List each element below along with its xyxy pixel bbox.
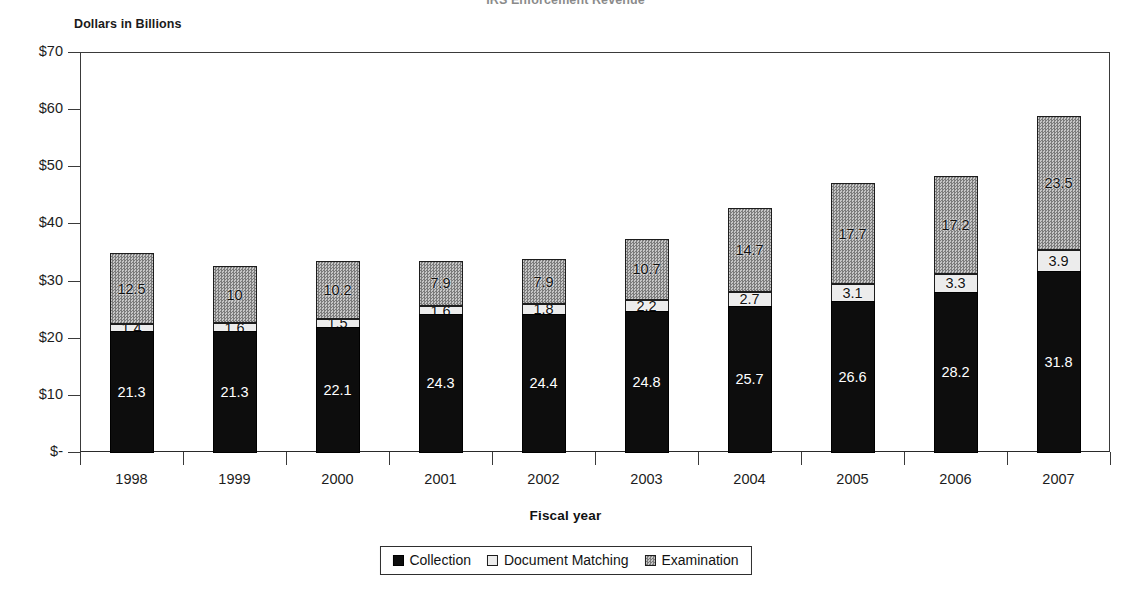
bar-segment-collection[interactable]: 25.7 bbox=[728, 306, 772, 453]
bar-value-label: 10 bbox=[226, 288, 242, 303]
stacked-bar[interactable]: 7.91.824.4 bbox=[522, 259, 566, 452]
bar-segment-examination[interactable]: 10.7 bbox=[625, 239, 669, 300]
bar-value-label: 12.5 bbox=[117, 282, 145, 297]
bar-group[interactable]: 12.51.421.3 bbox=[80, 52, 183, 452]
legend-label: Collection bbox=[409, 552, 470, 568]
legend-item-collection[interactable]: Collection bbox=[392, 552, 470, 568]
legend-label: Examination bbox=[661, 552, 738, 568]
bar-segment-collection[interactable]: 26.6 bbox=[831, 301, 875, 453]
bar-group[interactable]: 7.91.624.3 bbox=[389, 52, 492, 452]
bar-value-label: 24.4 bbox=[529, 376, 557, 391]
y-axis-label: $10 bbox=[3, 386, 63, 402]
bar-group[interactable]: 14.72.725.7 bbox=[698, 52, 801, 452]
bar-value-label: 28.2 bbox=[941, 365, 969, 380]
bar-value-label: 17.2 bbox=[941, 218, 969, 233]
bar-value-label: 22.1 bbox=[323, 383, 351, 398]
bar-value-label: 1.5 bbox=[327, 319, 347, 328]
bar-group[interactable]: 10.21.522.1 bbox=[286, 52, 389, 452]
bar-segment-document-matching[interactable]: 3.3 bbox=[934, 274, 978, 293]
x-axis-label: 1998 bbox=[77, 471, 187, 487]
bar-group[interactable]: 101.621.3 bbox=[183, 52, 286, 452]
y-axis-label: $30 bbox=[3, 272, 63, 288]
bar-segment-collection[interactable]: 24.4 bbox=[522, 314, 566, 453]
y-axis-label: $70 bbox=[3, 43, 63, 59]
bar-value-label: 24.3 bbox=[426, 376, 454, 391]
x-axis-tick bbox=[80, 452, 81, 465]
bar-value-label: 3.3 bbox=[945, 276, 965, 291]
stacked-bar[interactable]: 101.621.3 bbox=[213, 266, 257, 452]
bar-segment-examination[interactable]: 23.5 bbox=[1037, 116, 1081, 250]
bar-segment-examination[interactable]: 17.7 bbox=[831, 183, 875, 284]
stacked-bar[interactable]: 23.53.931.8 bbox=[1037, 116, 1081, 452]
bar-value-label: 21.3 bbox=[220, 385, 248, 400]
bar-value-label: 3.1 bbox=[842, 286, 862, 301]
bar-segment-examination[interactable]: 17.2 bbox=[934, 176, 978, 274]
chart-title: IRS Enforcement Revenue bbox=[0, 0, 1131, 7]
x-axis-label: 2001 bbox=[386, 471, 496, 487]
x-axis-label: 2004 bbox=[695, 471, 805, 487]
bar-segment-examination[interactable]: 12.5 bbox=[110, 253, 154, 324]
x-axis-tick bbox=[904, 452, 905, 465]
stacked-bar[interactable]: 12.51.421.3 bbox=[110, 253, 154, 452]
y-axis-label: $40 bbox=[3, 214, 63, 230]
bar-segment-examination[interactable]: 10 bbox=[213, 266, 257, 323]
bar-segment-examination[interactable]: 7.9 bbox=[522, 259, 566, 304]
bar-value-label: 10.7 bbox=[632, 262, 660, 277]
bar-segment-collection[interactable]: 21.3 bbox=[110, 331, 154, 453]
bar-value-label: 1.8 bbox=[533, 304, 553, 314]
legend-swatch-icon bbox=[487, 555, 498, 566]
bar-value-label: 25.7 bbox=[735, 372, 763, 387]
y-axis-label: $50 bbox=[3, 157, 63, 173]
bar-group[interactable]: 23.53.931.8 bbox=[1007, 52, 1110, 452]
bar-segment-examination[interactable]: 10.2 bbox=[316, 261, 360, 319]
x-axis-label: 2006 bbox=[901, 471, 1011, 487]
stacked-bar[interactable]: 7.91.624.3 bbox=[419, 261, 463, 452]
bar-segment-collection[interactable]: 24.8 bbox=[625, 311, 669, 453]
y-axis-label: $- bbox=[3, 443, 63, 459]
legend-item-examination[interactable]: Examination bbox=[644, 552, 738, 568]
chart-legend: CollectionDocument MatchingExamination bbox=[379, 546, 751, 575]
bar-group[interactable]: 10.72.224.8 bbox=[595, 52, 698, 452]
bar-value-label: 2.2 bbox=[636, 300, 656, 313]
bar-segment-examination[interactable]: 7.9 bbox=[419, 261, 463, 306]
bar-segment-document-matching[interactable]: 3.1 bbox=[831, 284, 875, 302]
stacked-bar[interactable]: 17.23.328.2 bbox=[934, 176, 978, 452]
bar-value-label: 7.9 bbox=[533, 275, 553, 290]
bar-segment-examination[interactable]: 14.7 bbox=[728, 208, 772, 292]
bar-value-label: 26.6 bbox=[838, 370, 866, 385]
bars-layer: 12.51.421.3101.621.310.21.522.17.91.624.… bbox=[80, 52, 1110, 452]
bar-segment-collection[interactable]: 24.3 bbox=[419, 314, 463, 453]
x-axis-label: 2002 bbox=[489, 471, 599, 487]
bar-value-label: 24.8 bbox=[632, 375, 660, 390]
y-axis-label: $60 bbox=[3, 100, 63, 116]
bar-segment-collection[interactable]: 28.2 bbox=[934, 292, 978, 453]
bar-value-label: 17.7 bbox=[838, 227, 866, 242]
y-axis-label: $20 bbox=[3, 329, 63, 345]
x-axis-label: 1999 bbox=[180, 471, 290, 487]
bar-value-label: 23.5 bbox=[1044, 176, 1072, 191]
bar-group[interactable]: 17.73.126.6 bbox=[801, 52, 904, 452]
bar-value-label: 1.4 bbox=[121, 324, 141, 332]
stacked-bar[interactable]: 14.72.725.7 bbox=[728, 208, 772, 452]
bar-group[interactable]: 17.23.328.2 bbox=[904, 52, 1007, 452]
bar-segment-collection[interactable]: 22.1 bbox=[316, 327, 360, 453]
legend-item-document-matching[interactable]: Document Matching bbox=[487, 552, 629, 568]
bar-value-label: 21.3 bbox=[117, 385, 145, 400]
x-axis-label: 2007 bbox=[1004, 471, 1114, 487]
bar-segment-document-matching[interactable]: 3.9 bbox=[1037, 250, 1081, 272]
stacked-bar[interactable]: 10.21.522.1 bbox=[316, 261, 360, 452]
bar-value-label: 10.2 bbox=[323, 283, 351, 298]
bar-segment-collection[interactable]: 21.3 bbox=[213, 331, 257, 453]
bar-value-label: 1.6 bbox=[430, 306, 450, 315]
legend-swatch-icon bbox=[392, 555, 403, 566]
bar-group[interactable]: 7.91.824.4 bbox=[492, 52, 595, 452]
bar-segment-document-matching[interactable]: 2.7 bbox=[728, 292, 772, 307]
x-axis-label: 2003 bbox=[592, 471, 702, 487]
stacked-bar[interactable]: 17.73.126.6 bbox=[831, 183, 875, 452]
bar-segment-collection[interactable]: 31.8 bbox=[1037, 271, 1081, 453]
x-axis-label: 2005 bbox=[798, 471, 908, 487]
stacked-bar[interactable]: 10.72.224.8 bbox=[625, 239, 669, 452]
bar-value-label: 1.6 bbox=[224, 323, 244, 332]
bar-value-label: 2.7 bbox=[739, 292, 759, 307]
y-axis-caption: Dollars in Billions bbox=[74, 17, 181, 31]
